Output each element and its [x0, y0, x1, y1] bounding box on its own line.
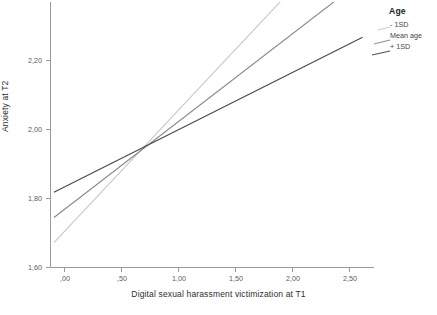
- legend-item-mean-age: Mean age: [380, 30, 437, 41]
- x-tick-label: 2,00: [273, 274, 313, 283]
- y-tick-label: 2,20: [8, 56, 42, 65]
- series-line-minus-1sd: [54, 0, 374, 243]
- legend-item-plus-1sd: + 1SD: [380, 41, 437, 52]
- series-line-mean-age: [54, 0, 374, 218]
- legend-item-label: Mean age: [390, 30, 422, 41]
- y-tick-label: 2,00: [8, 125, 42, 134]
- regression-lines: [54, 0, 374, 243]
- plot-area: [0, 0, 437, 315]
- y-tick-label: 1,80: [8, 194, 42, 203]
- chart-container: Anxiety at T2 Digital sexual harassment …: [0, 0, 437, 315]
- x-tick-label: ,50: [102, 274, 142, 283]
- y-tick-marks: [46, 61, 51, 268]
- x-tick-label: 2,50: [330, 274, 370, 283]
- legend: Age - 1SD Mean age + 1SD: [380, 6, 437, 52]
- x-tick-label: ,00: [45, 274, 85, 283]
- legend-item-label: - 1SD: [390, 19, 408, 30]
- y-tick-label: 1,60: [8, 263, 42, 272]
- legend-item-minus-1sd: - 1SD: [380, 19, 437, 30]
- legend-title: Age: [389, 6, 437, 16]
- legend-item-label: + 1SD: [390, 41, 410, 52]
- x-axis-title: Digital sexual harassment victimization …: [0, 289, 437, 299]
- x-tick-label: 1,00: [159, 274, 199, 283]
- x-tick-label: 1,50: [216, 274, 256, 283]
- series-line-plus-1sd: [54, 37, 363, 192]
- x-tick-marks: [65, 268, 350, 273]
